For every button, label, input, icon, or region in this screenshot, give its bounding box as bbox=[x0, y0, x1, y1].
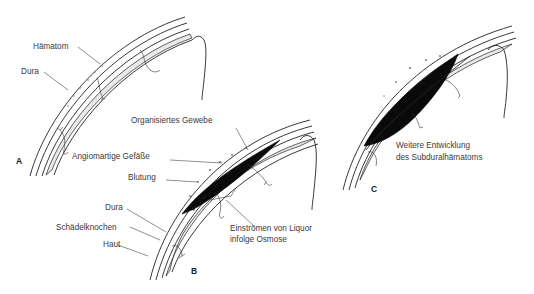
panel-label-b: B bbox=[191, 266, 197, 276]
label-b-angiomartige-gefasse: Angiomartige Gefäße bbox=[72, 152, 150, 161]
panel-label-a: A bbox=[16, 156, 22, 166]
panel-b: Organisiertes Gewebe Angiomartige Gefäße… bbox=[56, 116, 318, 280]
panel-c-skin-line bbox=[343, 26, 512, 190]
panel-b-skull-layers bbox=[150, 120, 314, 280]
panel-c-skull-layers bbox=[343, 26, 516, 190]
label-c-caption-line1: Weitere Entwicklung bbox=[396, 141, 470, 150]
label-a-dura: Dura bbox=[21, 67, 39, 76]
label-b-haut: Haut bbox=[103, 240, 121, 249]
panel-b-hematoma-bleeding bbox=[182, 140, 280, 214]
label-b-schadelknochen: Schädelknochen bbox=[56, 223, 117, 232]
label-a-hamatom: Hämatom bbox=[33, 42, 69, 51]
panel-b-skin-line bbox=[150, 120, 310, 280]
label-b-liquor-line1: Einströmen von Liquor bbox=[230, 224, 312, 233]
label-b-organisiertes-gewebe: Organisiertes Gewebe bbox=[131, 116, 213, 125]
panel-c-chronic-hematoma bbox=[364, 54, 458, 146]
label-b-dura: Dura bbox=[105, 203, 123, 212]
panel-label-c: C bbox=[371, 184, 377, 194]
label-c-caption-line2: des Subduralhämatoms bbox=[396, 153, 482, 162]
subdural-hematoma-diagram: Hämatom Dura A bbox=[0, 0, 534, 294]
panel-c: Weitere Entwicklung des Subduralhämatoms… bbox=[343, 26, 516, 194]
label-b-liquor-line2: infolge Osmose bbox=[230, 235, 287, 244]
label-b-blutung: Blutung bbox=[128, 173, 156, 182]
panel-c-skull-inner bbox=[355, 38, 516, 188]
